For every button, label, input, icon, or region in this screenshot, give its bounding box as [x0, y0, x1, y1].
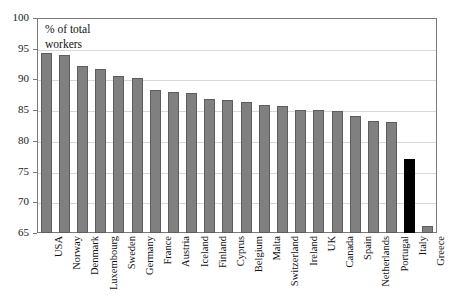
x-tick-label: Sweden — [123, 236, 134, 269]
x-tick-label: Finland — [214, 236, 225, 268]
bar — [186, 93, 197, 233]
x-tick-label: Ireland — [305, 236, 316, 266]
x-tick-label: Austria — [177, 236, 188, 267]
bar — [277, 106, 288, 233]
x-tick-label: Norway — [68, 236, 79, 270]
x-tick-label: Germany — [141, 236, 152, 275]
bar — [168, 92, 179, 233]
y-tick-mark — [33, 233, 37, 234]
bar — [204, 99, 215, 233]
bar — [368, 121, 379, 233]
x-tick-label: Denmark — [86, 236, 97, 275]
x-tick-label: France — [159, 236, 170, 265]
y-tick-label: 70 — [0, 196, 29, 207]
x-tick-label: Spain — [359, 236, 370, 260]
y-tick-label: 65 — [0, 227, 29, 238]
x-tick-label: Switzerland — [286, 236, 297, 286]
bar — [222, 100, 233, 233]
bar — [150, 90, 161, 233]
y-tick-label: 85 — [0, 104, 29, 115]
bar — [386, 122, 397, 233]
x-tick-label: Malta — [268, 236, 279, 261]
y-tick-label: 90 — [0, 73, 29, 84]
bar — [241, 102, 252, 233]
y-tick-label: 100 — [0, 12, 29, 23]
x-tick-label: Cyprus — [232, 236, 243, 266]
x-axis-labels: USANorwayDenmarkLuxembourgSwedenGermanyF… — [37, 236, 437, 303]
bar — [422, 226, 433, 233]
y-tick-label: 95 — [0, 43, 29, 54]
bar — [350, 116, 361, 233]
x-tick-label: Luxembourg — [105, 236, 116, 290]
x-tick-label: UK — [323, 236, 334, 251]
y-tick-label: 80 — [0, 135, 29, 146]
x-tick-label: USA — [50, 236, 61, 257]
x-tick-label: Italy — [414, 236, 425, 255]
bar — [95, 69, 106, 233]
x-tick-label: Greece — [432, 236, 443, 266]
bar — [313, 110, 324, 233]
y-axis: 10095908580757065 — [0, 0, 33, 303]
chart-page: 10095908580757065 % of total workers USA… — [0, 0, 462, 303]
bar — [59, 55, 70, 233]
bar — [132, 78, 143, 233]
bar — [77, 66, 88, 233]
bar — [41, 53, 52, 233]
bar — [259, 105, 270, 233]
bar — [295, 110, 306, 233]
bar — [113, 76, 124, 233]
bar-series — [37, 18, 437, 233]
y-tick-label: 75 — [0, 166, 29, 177]
x-tick-label: Portugal — [396, 236, 407, 272]
x-tick-label: Canada — [341, 236, 352, 268]
bar — [404, 159, 415, 233]
x-tick-label: Iceland — [196, 236, 207, 267]
x-tick-label: Netherlands — [377, 236, 388, 287]
x-tick-label: Belgium — [250, 236, 261, 272]
bar — [332, 111, 343, 233]
